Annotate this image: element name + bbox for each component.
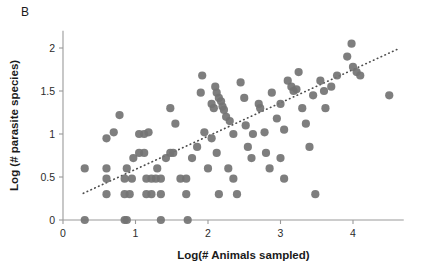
data-point xyxy=(102,175,110,183)
data-point xyxy=(302,120,310,128)
data-point xyxy=(128,175,136,183)
x-tick-label: 0 xyxy=(60,227,66,239)
data-point xyxy=(184,216,192,224)
data-point xyxy=(81,216,89,224)
data-point xyxy=(208,134,216,142)
data-point xyxy=(280,175,288,183)
x-axis-title: Log(# Animals sampled) xyxy=(177,249,310,261)
x-tick-label: 1 xyxy=(133,227,139,239)
data-point xyxy=(249,130,257,138)
data-point xyxy=(229,130,237,138)
data-point xyxy=(153,164,161,172)
data-point xyxy=(295,68,303,76)
data-point xyxy=(157,216,165,224)
data-point xyxy=(140,149,148,157)
data-point xyxy=(204,164,212,172)
data-point xyxy=(193,143,201,151)
data-point xyxy=(197,89,205,97)
data-point xyxy=(144,128,152,136)
data-point xyxy=(347,40,355,48)
figure-panel-b: B 0123400.511.52Log(# Animals sampled)Lo… xyxy=(0,0,424,269)
y-tick-label: 1 xyxy=(49,128,55,140)
x-tick-label: 3 xyxy=(278,227,284,239)
data-point xyxy=(200,128,208,136)
data-point xyxy=(121,175,129,183)
data-point xyxy=(126,190,134,198)
data-point xyxy=(256,104,264,112)
data-point xyxy=(123,216,131,224)
data-point xyxy=(157,190,165,198)
data-point xyxy=(182,190,190,198)
x-tick-label: 2 xyxy=(205,227,211,239)
data-point xyxy=(166,104,174,112)
data-point xyxy=(356,71,364,79)
data-point xyxy=(262,149,270,157)
y-tick-label: 0 xyxy=(49,214,55,226)
data-point xyxy=(102,164,110,172)
data-point xyxy=(385,91,393,99)
x-tick-label: 4 xyxy=(350,227,356,239)
data-point xyxy=(81,164,89,172)
data-point xyxy=(240,94,248,102)
data-point xyxy=(102,134,110,142)
data-point xyxy=(333,71,341,79)
data-point xyxy=(123,164,131,172)
y-tick-label: 2 xyxy=(49,42,55,54)
data-point xyxy=(233,190,241,198)
data-point xyxy=(242,121,250,129)
data-point xyxy=(260,128,268,136)
data-point xyxy=(321,104,329,112)
data-point xyxy=(102,190,110,198)
data-point xyxy=(292,85,300,93)
data-point xyxy=(305,143,313,151)
data-point xyxy=(229,175,237,183)
data-point xyxy=(157,175,165,183)
data-point xyxy=(210,104,218,112)
data-point xyxy=(280,126,288,134)
data-point xyxy=(298,104,306,112)
data-point xyxy=(266,164,274,172)
y-axis-title: Log (# parasite species) xyxy=(8,60,20,191)
data-point xyxy=(343,53,351,61)
data-point xyxy=(169,149,177,157)
data-point xyxy=(198,71,206,79)
data-point xyxy=(147,190,155,198)
scatter-plot: 0123400.511.52Log(# Animals sampled)Log … xyxy=(0,0,424,269)
data-point xyxy=(213,149,221,157)
data-point xyxy=(247,154,255,162)
data-point xyxy=(273,114,281,122)
data-point xyxy=(268,89,276,97)
data-point xyxy=(182,175,190,183)
data-point xyxy=(311,190,319,198)
axes xyxy=(59,31,404,224)
data-point xyxy=(320,87,328,95)
data-point xyxy=(224,164,232,172)
y-tick-label: 0.5 xyxy=(40,171,55,183)
data-point xyxy=(171,120,179,128)
data-point xyxy=(215,190,223,198)
data-point xyxy=(276,154,284,162)
data-point xyxy=(327,83,335,91)
data-point xyxy=(244,143,252,151)
data-point xyxy=(237,78,245,86)
data-point xyxy=(226,117,234,125)
axis-labels: 0123400.511.52Log(# Animals sampled)Log … xyxy=(8,42,356,261)
data-points xyxy=(81,40,394,225)
data-point xyxy=(276,100,284,108)
y-tick-label: 1.5 xyxy=(40,85,55,97)
data-point xyxy=(309,91,317,99)
data-point xyxy=(316,77,324,85)
data-point xyxy=(115,111,123,119)
data-point xyxy=(188,154,196,162)
data-point xyxy=(110,128,118,136)
